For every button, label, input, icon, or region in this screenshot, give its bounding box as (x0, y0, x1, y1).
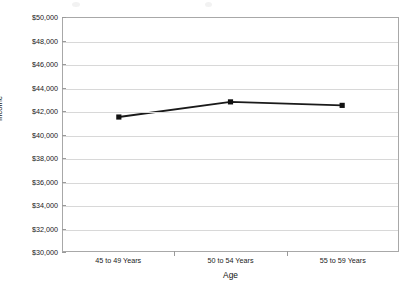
gridline (63, 42, 398, 43)
y-axis-tick-mark (62, 182, 66, 183)
gridline (63, 65, 398, 66)
x-axis-title: Age (62, 270, 399, 280)
plot-area (62, 17, 399, 252)
gridline (63, 112, 398, 113)
y-axis-tick-mark (62, 135, 66, 136)
gridline (63, 230, 398, 231)
y-axis-tick-labels: $50,000$48,000$46,000$44,000$42,000$40,0… (0, 17, 58, 252)
y-axis-tick-mark (62, 88, 66, 89)
data-point-marker (228, 99, 233, 104)
x-axis-tick-label: 45 to 49 Years (95, 256, 141, 265)
x-axis-tick-labels: 45 to 49 Years50 to 54 Years55 to 59 Yea… (62, 256, 399, 270)
y-axis-tick-mark (62, 205, 66, 206)
series-line-svg (63, 18, 398, 251)
gridline (63, 159, 398, 160)
scan-artifact (205, 2, 212, 7)
line-chart-figure: Income $50,000$48,000$46,000$44,000$42,0… (0, 0, 415, 294)
y-axis-tick-label: $42,000 (2, 107, 58, 116)
y-axis-tick-label: $36,000 (2, 177, 58, 186)
data-point-marker (116, 114, 121, 119)
y-axis-tick-mark (62, 41, 66, 42)
y-axis-tick-mark (62, 111, 66, 112)
y-axis-tick-mark (62, 252, 66, 253)
y-axis-tick-label: $44,000 (2, 83, 58, 92)
y-axis-tick-label: $50,000 (2, 13, 58, 22)
y-axis-tick-mark (62, 229, 66, 230)
scan-artifact (72, 2, 80, 7)
data-point-marker (340, 103, 345, 108)
x-axis-tick-mark (174, 251, 175, 256)
y-axis-tick-mark (62, 17, 66, 18)
x-axis-tick-label: 50 to 54 Years (208, 256, 254, 265)
y-axis-tick-label: $38,000 (2, 154, 58, 163)
gridline (63, 206, 398, 207)
y-axis-tick-label: $30,000 (2, 248, 58, 257)
gridline (63, 89, 398, 90)
y-axis-tick-label: $40,000 (2, 130, 58, 139)
y-axis-tick-label: $32,000 (2, 224, 58, 233)
y-axis-tick-label: $46,000 (2, 60, 58, 69)
gridline (63, 183, 398, 184)
y-axis-tick-label: $34,000 (2, 201, 58, 210)
x-axis-tick-mark (287, 251, 288, 256)
gridline (63, 136, 398, 137)
y-axis-tick-label: $48,000 (2, 36, 58, 45)
x-axis-tick-label: 55 to 59 Years (320, 256, 366, 265)
y-axis-tick-mark (62, 64, 66, 65)
y-axis-tick-mark (62, 158, 66, 159)
